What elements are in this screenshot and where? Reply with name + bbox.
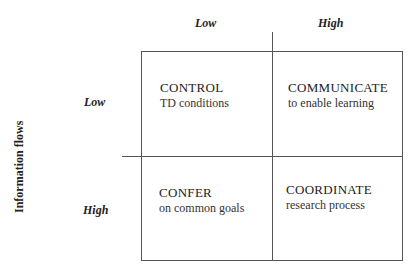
cell-subtitle: to enable learning [288, 96, 388, 111]
cell-subtitle: on common goals [159, 201, 244, 216]
cell-coordinate: COORDINATE research process [286, 182, 372, 213]
row-header-high: High [83, 203, 108, 218]
cell-control: CONTROL TD conditions [160, 80, 229, 111]
cell-confer: CONFER on common goals [159, 185, 244, 216]
horizontal-divider [122, 156, 403, 157]
column-header-high: High [318, 16, 343, 31]
y-axis-label: Information flows [12, 123, 28, 213]
cell-title: CONTROL [160, 80, 229, 96]
cell-title: COMMUNICATE [288, 80, 388, 96]
cell-title: COORDINATE [286, 182, 372, 198]
vertical-divider [272, 32, 273, 261]
column-header-low: Low [195, 16, 216, 31]
cell-subtitle: TD conditions [160, 96, 229, 111]
cell-title: CONFER [159, 185, 244, 201]
cell-communicate: COMMUNICATE to enable learning [288, 80, 388, 111]
cell-subtitle: research process [286, 198, 372, 213]
row-header-low: Low [84, 95, 105, 110]
